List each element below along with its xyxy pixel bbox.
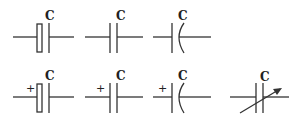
- label-c: C: [45, 69, 55, 83]
- symbol-electrolytic: C: [13, 9, 74, 53]
- label-c: C: [45, 9, 55, 23]
- label-c: C: [178, 9, 188, 23]
- plus-sign: +: [96, 82, 105, 95]
- plus-sign: +: [26, 82, 35, 95]
- symbol-curved-plate-polarized: + C: [153, 69, 211, 113]
- label-c: C: [178, 69, 188, 83]
- label-c: C: [260, 70, 270, 84]
- label-c: C: [116, 9, 126, 23]
- plus-sign: +: [158, 82, 167, 95]
- symbol-fixed: C: [85, 9, 143, 53]
- symbol-electrolytic-polarized: + C: [13, 69, 74, 113]
- symbol-curved-plate: C: [153, 9, 211, 53]
- symbol-variable: C: [230, 70, 289, 113]
- symbol-fixed-polarized: + C: [85, 69, 143, 113]
- label-c: C: [116, 69, 126, 83]
- arrow-head-icon: [273, 88, 282, 95]
- capacitor-symbols-diagram: C C C + C + C + C: [0, 0, 299, 119]
